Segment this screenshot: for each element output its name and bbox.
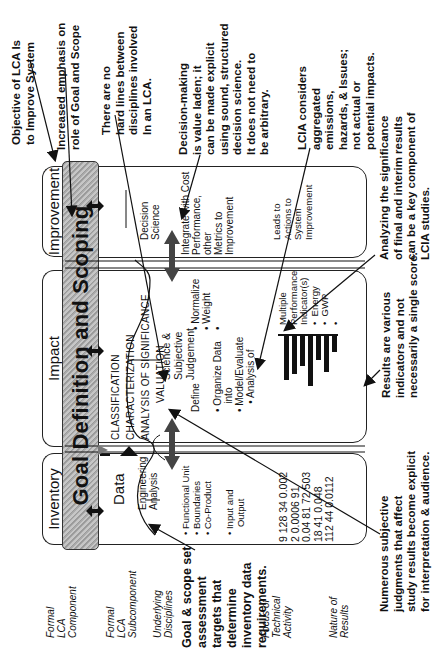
lca-framework-diagram: Formal LCA Component Formal LCA Subcompo… (0, 0, 441, 660)
diagram-lines (0, 0, 441, 660)
